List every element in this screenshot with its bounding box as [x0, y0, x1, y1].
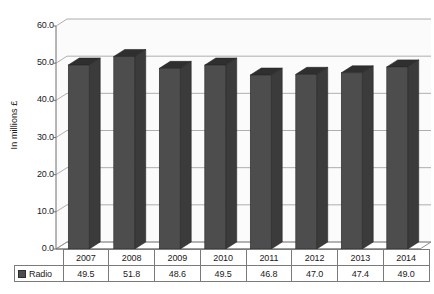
- table-row-values: Radio 49.551.848.649.546.847.047.449.0: [15, 266, 430, 282]
- table-cell-year: 2011: [246, 250, 292, 266]
- table-cell-value: 49.5: [63, 266, 109, 282]
- table-cell-year: 2008: [109, 250, 155, 266]
- table-cell-year: 2013: [338, 250, 384, 266]
- table-cell-value: 48.6: [155, 266, 201, 282]
- table-cell-year: 2012: [292, 250, 338, 266]
- data-table: 20072008200920102011201220132014 Radio 4…: [14, 249, 430, 282]
- table-cell-year: 2014: [383, 250, 429, 266]
- table-cell-value: 49.5: [200, 266, 246, 282]
- table-cell-value: 51.8: [109, 266, 155, 282]
- table-cell-value: 49.0: [383, 266, 429, 282]
- bar-2008: [114, 49, 146, 249]
- table-corner-blank: [15, 250, 64, 266]
- bar-2009: [159, 61, 191, 249]
- bar-2013: [341, 66, 373, 249]
- table-cell-value: 47.4: [338, 266, 384, 282]
- bar-2007: [68, 58, 100, 249]
- table-cell-year: 2009: [155, 250, 201, 266]
- plot-floor: [56, 19, 431, 249]
- table-cell-year: 2007: [63, 250, 109, 266]
- table-cell-value: 46.8: [246, 266, 292, 282]
- table-row-years: 20072008200920102011201220132014: [15, 250, 430, 266]
- bar-2012: [296, 67, 328, 249]
- legend-series-radio: Radio: [15, 266, 64, 282]
- legend-label: Radio: [29, 269, 52, 279]
- table-cell-year: 2010: [200, 250, 246, 266]
- bar-2010: [205, 58, 237, 249]
- chart-container: In millions £ 0.010.020.030.040.050.060.…: [0, 0, 434, 294]
- legend-swatch-icon: [18, 270, 26, 278]
- bar-2011: [250, 68, 282, 249]
- table-cell-value: 47.0: [292, 266, 338, 282]
- bar-2014: [387, 60, 419, 249]
